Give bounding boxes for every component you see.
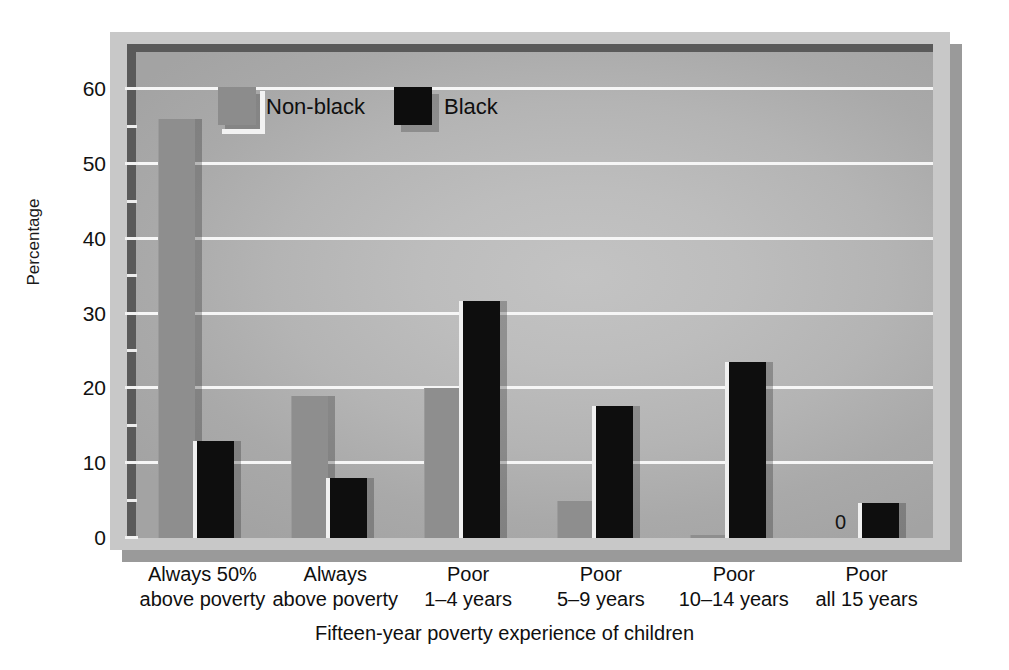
gridline-30 [136,312,933,315]
x-tick-label-line1: Poor [777,562,957,587]
y-tick-label-20: 20 [60,377,106,398]
black-swatch [394,87,432,125]
y-tick-minor-15 [127,424,137,427]
y-tick-minor-55 [127,125,137,128]
y-tick-label-0: 0 [60,527,106,548]
y-tick-minor-5 [127,499,137,502]
legend-label-black: Black [444,96,498,118]
y-tick-major-30 [125,312,138,315]
y-tick-major-20 [125,386,138,389]
x-tick-label-5: Poorall 15 years [777,562,957,612]
bar-black-2[interactable] [463,301,500,538]
zero-value-annotation: 0 [835,512,846,532]
bar-black-3[interactable] [596,406,633,538]
y-tick-label-60: 60 [60,78,106,99]
gray-swatch [218,87,256,125]
bar-black-4[interactable] [729,362,766,538]
bar-non-black-0[interactable] [158,119,195,538]
bar-black-5[interactable] [862,503,899,538]
y-tick-major-60 [125,87,138,90]
y-tick-major-0 [125,536,138,539]
y-tick-label-30: 30 [60,303,106,324]
bar-non-black-2[interactable] [424,388,461,538]
x-tick-label-line2: all 15 years [777,587,957,612]
plot-frame-top [127,44,933,52]
y-tick-major-10 [125,461,138,464]
bar-non-black-1[interactable] [291,396,328,538]
y-tick-minor-45 [127,200,137,203]
y-axis-tick-strip [127,52,136,538]
gridline-10 [136,461,933,464]
y-tick-label-10: 10 [60,452,106,473]
legend-label-non-black: Non-black [266,96,365,118]
bar-chart-figure: 0Non-blackBlack 0102030405060 Percentage… [0,0,1009,670]
y-axis-title: Percentage [24,152,44,332]
gridline-50 [136,162,933,165]
gridline-20 [136,386,933,389]
bar-non-black-3[interactable] [557,501,594,538]
y-tick-label-40: 40 [60,228,106,249]
y-tick-major-50 [125,162,138,165]
y-tick-major-40 [125,237,138,240]
bar-black-0[interactable] [197,441,234,538]
y-tick-minor-35 [127,274,137,277]
gridline-40 [136,237,933,240]
y-tick-label-50: 50 [60,153,106,174]
x-axis-tick-labels: Always 50%above povertyAlwaysabove pover… [0,562,1009,622]
y-tick-minor-25 [127,349,137,352]
plot-area: 0Non-blackBlack [136,52,933,538]
x-axis-title: Fifteen-year poverty experience of child… [0,622,1009,645]
bar-black-1[interactable] [330,478,367,538]
bar-non-black-4[interactable] [690,535,727,538]
